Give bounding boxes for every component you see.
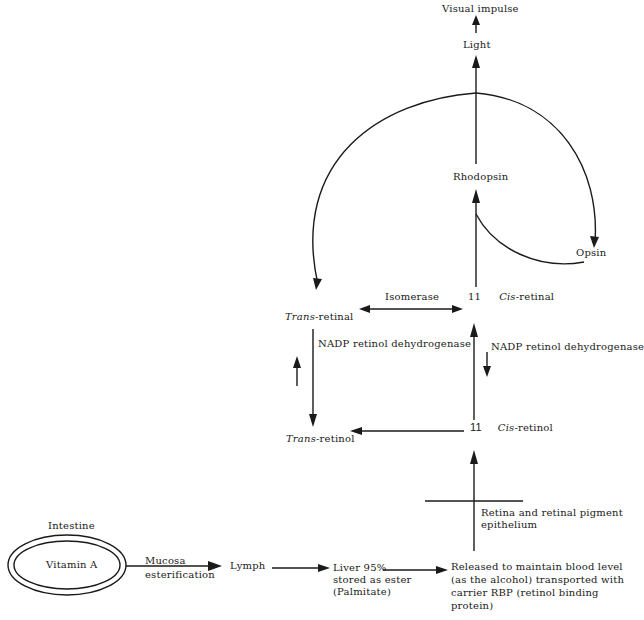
- arrowhead-icon: [318, 564, 330, 572]
- label-isomerase: Isomerase: [385, 291, 439, 303]
- label-mucosa: Mucosa: [145, 555, 186, 567]
- label-liver-line2: stored as ester: [333, 574, 412, 586]
- label-trans-retinal: Trans-retinal: [285, 311, 353, 323]
- label-nadp-left: NADP retinol dehydrogenase: [318, 338, 471, 350]
- label-released-line4: protein): [451, 600, 493, 612]
- label-liver-line3: (Palmitate): [333, 586, 391, 598]
- label-light: Light: [463, 39, 491, 51]
- curve-opsin-to-rhodopsin: [476, 214, 584, 264]
- arrowhead-icon: [309, 414, 317, 427]
- arrowhead-icon: [472, 15, 480, 25]
- label-retina: Retina and retinal pigment epithelium: [481, 507, 631, 531]
- label-vitamin-a: Vitamin A: [46, 559, 98, 571]
- label-liver-line1: Liver 95%: [333, 562, 386, 574]
- label-rhodopsin: Rhodopsin: [453, 171, 508, 183]
- arrowhead-icon: [472, 55, 480, 68]
- arrowhead-icon: [436, 566, 448, 574]
- label-released-line2: (as the alcohol) transported with: [451, 574, 624, 586]
- label-released-line3: carrier RBP (retinol binding: [451, 587, 599, 599]
- label-released-line1: Released to maintain blood level: [451, 561, 623, 573]
- label-trans-retinol: Trans-retinol: [286, 433, 355, 445]
- label-intestine: Intestine: [48, 520, 95, 532]
- arrowhead-icon: [472, 189, 480, 203]
- label-opsin: Opsin: [576, 247, 606, 259]
- arrowhead-icon: [452, 305, 463, 313]
- label-cis-retinal: 11Cis-retinal: [468, 291, 554, 303]
- label-cis-retinol: 11Cis-retinol: [470, 421, 553, 434]
- curve-rhodopsin-to-trans-retinal: [313, 93, 476, 285]
- label-nadp-right: NADP retinol dehydrogenase: [491, 341, 644, 353]
- arrowhead-icon: [293, 356, 301, 368]
- label-esterification: esterification: [145, 569, 215, 581]
- arrowhead-icon: [359, 305, 370, 313]
- label-lymph: Lymph: [230, 560, 265, 572]
- arrowhead-icon: [470, 323, 478, 337]
- curve-rhodopsin-to-opsin: [476, 93, 595, 242]
- arrowhead-icon: [313, 278, 322, 290]
- arrowhead-icon: [470, 450, 478, 464]
- label-visual-impulse: Visual impulse: [442, 3, 519, 15]
- arrowhead-icon: [483, 366, 491, 377]
